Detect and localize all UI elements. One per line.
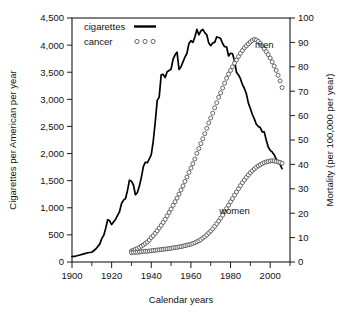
y-axis-right-ticklabels: 0102030405060708090100 (298, 12, 314, 267)
y-left-ticklabel: 1,500 (40, 175, 64, 186)
chart-figure: 05001,0001,5002,0002,5003,0003,5004,0004… (0, 0, 346, 316)
datapoint (201, 137, 205, 141)
annotation-women: women (218, 205, 250, 216)
smoking-lung-cancer-chart: 05001,0001,5002,0002,5003,0003,5004,0004… (0, 0, 346, 316)
annotation-men: men (255, 39, 273, 50)
datapoint (193, 157, 197, 161)
datapoint (175, 196, 179, 200)
y-left-ticklabel: 4,500 (40, 12, 64, 23)
x-ticklabel: 1940 (141, 270, 162, 281)
datapoint (270, 60, 274, 64)
datapoint (272, 64, 276, 68)
legend-swatch-circles-icon (135, 39, 155, 43)
x-ticklabel: 1960 (180, 270, 201, 281)
datapoint (183, 179, 187, 183)
y-left-ticklabel: 0 (59, 256, 64, 267)
datapoint (189, 166, 193, 170)
y-right-ticklabel: 30 (298, 183, 309, 194)
x-axis-ticks (72, 262, 290, 268)
datapoint (211, 111, 215, 115)
x-axis-ticklabels: 190019201940196019802000 (61, 270, 280, 281)
y-left-ticklabel: 2,500 (40, 121, 64, 132)
datapoint (276, 73, 280, 77)
datapoint (185, 175, 189, 179)
datapoint (179, 188, 183, 192)
datapoint (191, 162, 195, 166)
datapoint (209, 116, 213, 120)
y-left-ticklabel: 4,000 (40, 40, 64, 51)
datapoint (221, 86, 225, 90)
datapoint (223, 81, 227, 85)
datapoint (215, 101, 219, 105)
datapoint (274, 68, 278, 72)
datapoint (217, 95, 221, 99)
x-ticklabel: 1980 (220, 270, 241, 281)
y-left-ticklabel: 500 (48, 229, 64, 240)
x-ticklabel: 1920 (101, 270, 122, 281)
datapoint (177, 192, 181, 196)
y-axis-left-ticklabels: 05001,0001,5002,0002,5003,0003,5004,0004… (40, 12, 64, 267)
y-right-ticklabel: 20 (298, 208, 309, 219)
datapoint (219, 91, 223, 95)
legend-label-cancer: cancer (84, 36, 113, 47)
y-axis-right-ticks (290, 18, 295, 262)
y-left-ticklabel: 3,000 (40, 94, 64, 105)
y-left-ticklabel: 2,000 (40, 148, 64, 159)
datapoint (181, 184, 185, 188)
series-cigarettes (72, 29, 282, 256)
datapoint (197, 147, 201, 151)
y-left-ticklabel: 3,500 (40, 67, 64, 78)
datapoint (225, 76, 229, 80)
datapoint (205, 126, 209, 130)
data-series-layer (72, 29, 284, 256)
datapoint (268, 56, 272, 60)
datapoint (195, 151, 199, 155)
plot-frame (72, 18, 290, 262)
y-left-ticklabel: 1,000 (40, 202, 64, 213)
y-axis-left-title: Cigarettes per American per year (7, 70, 18, 209)
datapoint (187, 170, 191, 174)
y-right-ticklabel: 50 (298, 134, 309, 145)
datapoint (203, 132, 207, 136)
x-axis-title: Calendar years (149, 294, 214, 305)
y-right-ticklabel: 40 (298, 159, 309, 170)
datapoint (280, 161, 284, 165)
y-right-ticklabel: 80 (298, 61, 309, 72)
x-ticklabel: 1900 (61, 270, 82, 281)
datapoint (278, 79, 282, 83)
y-right-ticklabel: 60 (298, 110, 309, 121)
series-cancer-women (129, 159, 284, 255)
y-axis-right-title: Mortality (per 100,000 per year) (324, 73, 335, 206)
y-axis-left-ticks (67, 18, 72, 262)
y-right-ticklabel: 90 (298, 37, 309, 48)
datapoint (199, 142, 203, 146)
legend-label-cigarettes: cigarettes (84, 21, 125, 32)
datapoint (213, 106, 217, 110)
series-annotations: menwomen (218, 39, 273, 216)
datapoint (207, 121, 211, 125)
datapoint (280, 86, 284, 90)
chart-legend: cigarettes cancer (84, 21, 156, 47)
x-ticklabel: 2000 (260, 270, 281, 281)
y-right-ticklabel: 0 (298, 256, 303, 267)
series-line-cigarettes (72, 29, 282, 256)
y-right-ticklabel: 70 (298, 86, 309, 97)
y-right-ticklabel: 10 (298, 232, 309, 243)
y-right-ticklabel: 100 (298, 12, 314, 23)
